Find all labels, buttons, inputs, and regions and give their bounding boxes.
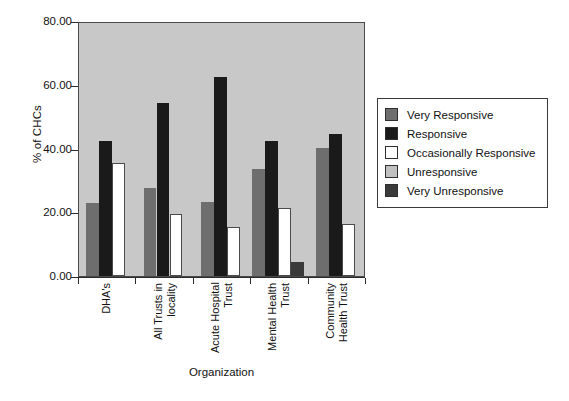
legend-swatch-icon: [385, 165, 398, 178]
x-tick-mark: [308, 278, 309, 284]
x-category-label: Mental Health Trust: [266, 283, 291, 353]
legend-item[interactable]: Responsive: [385, 124, 540, 143]
y-tick-label: 0.00: [26, 271, 72, 283]
y-tick-mark: [71, 277, 78, 278]
plot-area: [78, 22, 365, 277]
bar: [265, 141, 278, 276]
bar: [252, 169, 265, 276]
legend-item[interactable]: Very Unresponsive: [385, 181, 540, 200]
bar-chart: % of CHCs 0.0020.0040.0060.0080.00 DHA's…: [0, 0, 569, 401]
legend-label: Very Responsive: [407, 109, 493, 121]
y-tick-mark: [71, 213, 78, 214]
bar: [112, 163, 125, 276]
x-tick-mark: [78, 278, 79, 284]
legend-item[interactable]: Very Responsive: [385, 105, 540, 124]
y-tick-mark: [71, 86, 78, 87]
y-tick-label: 20.00: [26, 207, 72, 219]
y-tick-label: 60.00: [26, 80, 72, 92]
legend-label: Occasionally Responsive: [407, 147, 535, 159]
x-category-label: Acute Hospital Trust: [209, 283, 234, 353]
legend-swatch-icon: [385, 127, 398, 140]
x-axis-title: Organization: [78, 366, 365, 378]
x-tick-mark: [135, 278, 136, 284]
x-category-label: DHA's: [100, 283, 113, 353]
bar: [214, 77, 227, 276]
legend-item[interactable]: Occasionally Responsive: [385, 143, 540, 162]
x-axis-line: [78, 277, 365, 278]
y-tick-label: 80.00: [26, 16, 72, 28]
bar: [86, 203, 99, 276]
bars-layer: [79, 23, 364, 276]
bar: [157, 103, 170, 276]
x-category-label: Community Health Trust: [324, 283, 349, 353]
x-tick-mark: [193, 278, 194, 284]
legend-swatch-icon: [385, 108, 398, 121]
bar: [342, 224, 355, 276]
y-tick-mark: [71, 22, 78, 23]
legend-label: Unresponsive: [407, 166, 477, 178]
bar: [99, 141, 112, 276]
bar: [316, 148, 329, 276]
bar: [201, 202, 214, 276]
bar: [278, 208, 291, 276]
legend-label: Responsive: [407, 128, 467, 140]
y-tick-mark: [71, 150, 78, 151]
bar: [291, 262, 304, 276]
legend-swatch-icon: [385, 146, 398, 159]
legend: Very ResponsiveResponsiveOccasionally Re…: [377, 98, 548, 208]
bar: [227, 227, 240, 276]
legend-swatch-icon: [385, 184, 398, 197]
legend-item[interactable]: Unresponsive: [385, 162, 540, 181]
y-axis-tick-labels: 0.0020.0040.0060.0080.00: [24, 0, 72, 401]
legend-label: Very Unresponsive: [407, 185, 504, 197]
x-tick-mark: [250, 278, 251, 284]
bar: [144, 188, 157, 276]
bar: [170, 214, 183, 276]
x-tick-mark: [365, 278, 366, 284]
y-tick-label: 40.00: [26, 144, 72, 156]
bar: [329, 134, 342, 276]
x-category-label: All Trusts in locality: [152, 283, 177, 353]
